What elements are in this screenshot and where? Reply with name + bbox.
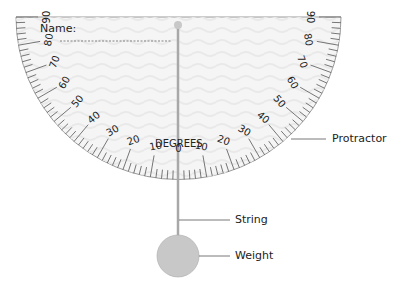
weight-label: Weight xyxy=(235,249,273,262)
protractor-label: Protractor xyxy=(332,132,387,145)
weight-bob xyxy=(157,235,199,277)
string-label: String xyxy=(235,213,268,226)
svg-text:90: 90 xyxy=(305,11,316,24)
svg-text:80: 80 xyxy=(302,33,315,47)
pivot xyxy=(174,21,182,29)
degrees-label: DEGREES xyxy=(155,138,203,149)
name-label: Name: xyxy=(40,22,76,35)
